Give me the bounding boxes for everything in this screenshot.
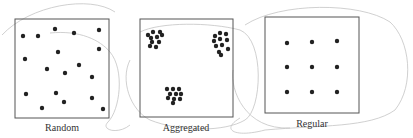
point-dot <box>165 87 169 91</box>
point-dot <box>40 106 44 110</box>
point-dot <box>174 92 178 96</box>
point-dot <box>285 90 289 94</box>
point-dot <box>219 53 223 57</box>
point-dot <box>36 34 40 38</box>
point-dot <box>225 38 229 42</box>
point-dot <box>150 40 154 44</box>
point-dot <box>166 96 170 100</box>
point-dot <box>154 45 158 49</box>
point-dot <box>23 57 27 61</box>
quadrat-boxes <box>15 17 359 118</box>
point-dot <box>157 40 161 44</box>
point-dot <box>54 91 58 95</box>
point-dot <box>148 44 152 48</box>
quadrat-box-random <box>15 19 109 118</box>
point-dot <box>310 40 314 44</box>
point-dot <box>101 107 105 111</box>
point-dot <box>224 32 228 36</box>
point-dot <box>226 47 230 51</box>
point-dot <box>53 27 57 31</box>
label-regular: Regular <box>262 118 362 129</box>
point-dot <box>155 35 159 39</box>
point-dot <box>218 37 222 41</box>
point-dot <box>335 39 339 43</box>
point-dot <box>168 92 172 96</box>
point-dot <box>218 31 222 35</box>
point-dot <box>213 34 217 38</box>
point-dot <box>90 96 94 100</box>
point-dot <box>171 87 175 91</box>
point-dot <box>160 33 164 37</box>
point-dot <box>72 31 76 35</box>
point-dot <box>45 67 49 71</box>
point-dot <box>177 87 181 91</box>
point-dot <box>220 43 224 47</box>
point-dot <box>310 90 314 94</box>
point-dot <box>97 47 101 51</box>
point-dot <box>285 41 289 45</box>
pencil-sketch-loops <box>2 4 408 133</box>
point-dot <box>335 65 339 69</box>
point-dot <box>310 65 314 69</box>
point-dot <box>21 34 25 38</box>
point-dot <box>90 75 94 79</box>
point-dot <box>24 92 28 96</box>
point-dot <box>285 65 289 69</box>
point-dot <box>62 100 66 104</box>
point-dot <box>178 97 182 101</box>
point-dot <box>179 92 183 96</box>
label-aggregated: Aggregated <box>136 122 236 133</box>
label-random: Random <box>12 122 112 133</box>
point-dot <box>151 30 155 34</box>
point-dot <box>172 97 176 101</box>
point-dot <box>56 50 60 54</box>
point-dot <box>97 28 101 32</box>
point-dot <box>171 101 175 105</box>
point-dot <box>77 63 81 67</box>
point-dot <box>149 36 153 40</box>
point-dot <box>63 71 67 75</box>
point-dots <box>21 27 339 111</box>
point-dot <box>212 39 216 43</box>
point-dot <box>335 90 339 94</box>
point-dot <box>214 44 218 48</box>
